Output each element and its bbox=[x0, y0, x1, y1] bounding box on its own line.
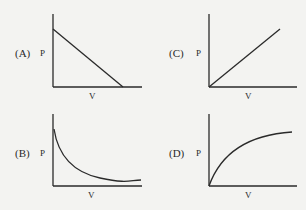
x-axis-label-c: V bbox=[245, 91, 252, 101]
y-axis-label-a: P bbox=[40, 48, 45, 58]
curve-c bbox=[209, 29, 280, 87]
option-label-b: (B) bbox=[15, 147, 30, 160]
option-label-d: (D) bbox=[169, 147, 185, 160]
curve-b bbox=[54, 129, 141, 181]
graph-d: (D) P V bbox=[169, 114, 297, 200]
y-axis-label-b: P bbox=[40, 148, 45, 158]
x-axis-label-a: V bbox=[89, 91, 96, 101]
pv-graphs-figure: (A) P V (C) P V (B) P V (D) P V bbox=[0, 0, 306, 210]
graph-b: (B) P V bbox=[15, 114, 142, 200]
graph-c: (C) P V bbox=[169, 14, 297, 101]
y-axis-label-d: P bbox=[196, 148, 201, 158]
curve-d bbox=[209, 132, 292, 186]
curve-a bbox=[53, 29, 123, 87]
x-axis-label-b: V bbox=[88, 190, 95, 200]
graph-a: (A) P V bbox=[15, 14, 142, 101]
option-label-c: (C) bbox=[169, 47, 184, 60]
option-label-a: (A) bbox=[15, 47, 31, 60]
y-axis-label-c: P bbox=[196, 48, 201, 58]
x-axis-label-d: V bbox=[245, 190, 252, 200]
